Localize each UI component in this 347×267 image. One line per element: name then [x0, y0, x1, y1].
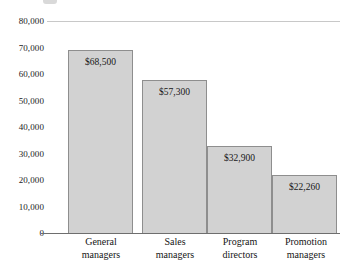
x-tick-label-line-1: General	[62, 236, 140, 249]
plot-area: $68,500 $57,300 $32,900 $22,260	[0, 0, 347, 267]
x-tick-label-promotion-managers: Promotion managers	[266, 236, 346, 261]
x-tick-label-line-1: Promotion	[266, 236, 346, 249]
bar-chart: 80,000 70,000 60,000 50,000 40,000 30,00…	[0, 0, 347, 267]
x-axis-line	[41, 233, 340, 234]
bar-value-label-general-managers: $68,500	[69, 57, 132, 68]
x-tick-label-line-2: managers	[62, 249, 140, 262]
bar-sales-managers[interactable]: $57,300	[142, 80, 207, 234]
x-tick-label-line-2: managers	[266, 249, 346, 262]
x-tick-label-general-managers: General managers	[62, 236, 140, 261]
bar-program-directors[interactable]: $32,900	[207, 146, 272, 234]
bar-general-managers[interactable]: $68,500	[68, 50, 133, 234]
bar-value-label-promotion-managers: $22,260	[273, 182, 336, 193]
bar-value-label-sales-managers: $57,300	[143, 87, 206, 98]
bar-value-label-program-directors: $32,900	[208, 153, 271, 164]
bar-promotion-managers[interactable]: $22,260	[272, 175, 337, 234]
